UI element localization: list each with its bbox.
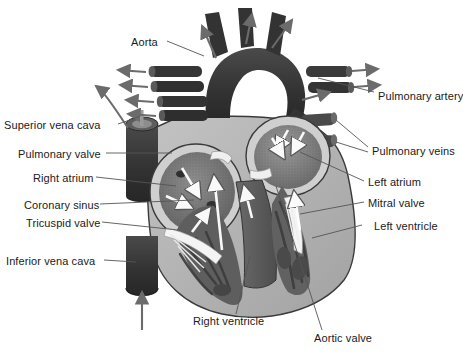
label-right-atrium: Right atrium <box>33 172 94 184</box>
heart-diagram-figure: Superior vena cava Pulmonary valve Right… <box>0 0 463 358</box>
left-vessel-stubs <box>149 66 208 121</box>
label-superior-vena-cava: Superior vena cava <box>4 119 101 131</box>
pulmonary-artery-branches <box>306 66 354 93</box>
label-left-ventricle: Left ventricle <box>374 220 438 232</box>
label-right-ventricle: Right ventricle <box>193 315 264 327</box>
inferior-vena-cava <box>126 236 158 296</box>
label-left-atrium: Left atrium <box>368 176 421 188</box>
label-aorta: Aorta <box>131 36 158 48</box>
label-pulmonary-valve: Pulmonary valve <box>18 148 101 160</box>
label-tricuspid-valve: Tricuspid valve <box>26 217 100 229</box>
label-aortic-valve: Aortic valve <box>314 332 372 344</box>
label-mitral-valve: Mitral valve <box>368 197 425 209</box>
label-pulmonary-veins: Pulmonary veins <box>372 145 455 157</box>
label-pulmonary-artery: Pulmonary artery <box>378 90 463 102</box>
label-coronary-sinus: Coronary sinus <box>24 199 99 211</box>
label-inferior-vena-cava: Inferior vena cava <box>6 255 95 267</box>
